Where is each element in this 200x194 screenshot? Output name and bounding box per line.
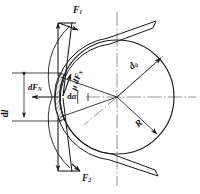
label-dFN: dFN (28, 83, 42, 92)
diameter-leader (117, 58, 161, 97)
label-d-alpha: dα (67, 92, 76, 101)
F1-diagonal-arrow (59, 23, 78, 30)
d0-leader-line (117, 58, 161, 97)
label-F1: F1 (73, 6, 82, 16)
F2-tangent-line (63, 98, 72, 172)
radius-leader (117, 97, 157, 134)
F2-diagonal-arrow (72, 164, 80, 171)
d-alpha-arc (77, 90, 78, 104)
centerlines (86, 12, 196, 186)
label-F2: F2 (82, 174, 91, 184)
band-brake-figure: F1 F2 μ dFN dFN dl dα d0 R (0, 0, 200, 194)
R-leader-line (117, 97, 157, 134)
spoke-lower-left (84, 97, 117, 125)
label-dl: dl (1, 110, 11, 118)
figure-canvas (0, 0, 200, 194)
